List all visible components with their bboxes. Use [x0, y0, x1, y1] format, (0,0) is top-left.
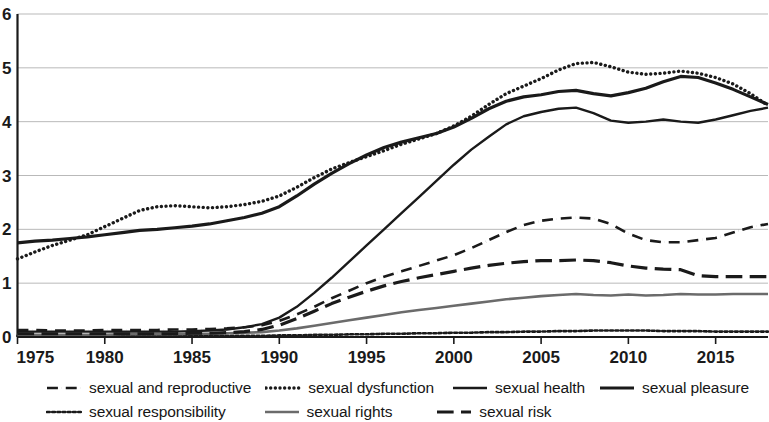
plot-area: 0123456197519801985199019952000200520102… [0, 0, 769, 370]
y-tick-label: 4 [2, 113, 12, 132]
legend-row-2: sexual responsibilitysexual rightssexual… [0, 400, 769, 422]
x-tick-label: 1995 [348, 348, 386, 367]
legend-item[interactable]: sexual and reproductive [46, 379, 251, 397]
legend-label: sexual and reproductive [89, 379, 251, 397]
dashdot-swatch [46, 381, 82, 395]
y-tick-label: 3 [2, 167, 11, 186]
x-tick-label: 1980 [86, 348, 124, 367]
legend-label: sexual pleasure [642, 379, 749, 397]
series-line-sexual-pleasure [18, 76, 769, 242]
legend-label: sexual health [495, 379, 585, 397]
legend-item[interactable]: sexual risk [436, 403, 551, 421]
legend-row-1: sexual and reproductivesexual dysfunctio… [0, 376, 769, 400]
legend-item[interactable]: sexual responsibility [46, 403, 226, 421]
fine-dotted-swatch [46, 405, 82, 419]
legend-item[interactable]: sexual rights [264, 403, 393, 421]
legend-label: sexual rights [307, 403, 393, 421]
series-line-sexual-risk [18, 260, 769, 334]
line-chart: 0123456197519801985199019952000200520102… [0, 0, 769, 422]
legend-item[interactable]: sexual health [452, 379, 585, 397]
legend-label: sexual dysfunction [308, 379, 434, 397]
x-tick-label: 1975 [17, 348, 55, 367]
plot-svg: 0123456197519801985199019952000200520102… [0, 0, 769, 370]
y-tick-label: 6 [2, 5, 11, 24]
legend-label: sexual responsibility [89, 403, 226, 421]
legend-item[interactable]: sexual pleasure [599, 379, 749, 397]
series-line-sexual-rights [18, 294, 769, 335]
x-tick-label: 1985 [173, 348, 211, 367]
solid-gray-swatch [264, 405, 300, 419]
series-line-sexual-health [18, 108, 769, 332]
x-tick-label: 2010 [609, 348, 647, 367]
chart-legend: sexual and reproductivesexual dysfunctio… [0, 370, 769, 422]
x-tick-label: 1990 [260, 348, 298, 367]
x-tick-label: 2000 [435, 348, 473, 367]
dotted-swatch [265, 381, 301, 395]
x-tick-label: 2005 [522, 348, 560, 367]
y-tick-label: 5 [2, 59, 11, 78]
y-tick-label: 2 [2, 220, 11, 239]
x-tick-label: 2015 [697, 348, 735, 367]
solid-thick-swatch [599, 381, 635, 395]
solid-swatch [452, 381, 488, 395]
dashed-swatch [436, 405, 472, 419]
y-tick-label: 1 [2, 274, 11, 293]
y-tick-label: 0 [2, 328, 11, 347]
legend-item[interactable]: sexual dysfunction [265, 379, 434, 397]
legend-label: sexual risk [479, 403, 551, 421]
